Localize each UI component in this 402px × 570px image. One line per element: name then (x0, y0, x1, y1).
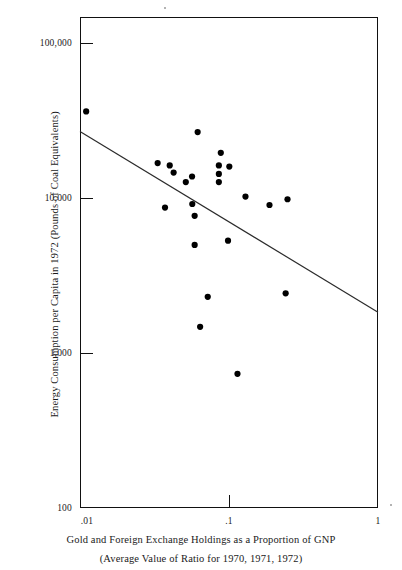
y-axis-title: Energy Consumption per Capita in 1972 (P… (49, 118, 60, 418)
y-tick-label-10000: 10,000 (16, 193, 72, 203)
y-tick-label-1000: 1,000 (16, 348, 72, 358)
scatter-plot-figure: 100,000 10,000 1,000 100 .01 .1 1 Energy… (0, 0, 402, 570)
scan-speck (390, 504, 392, 506)
x-axis-subtitle: (Average Value of Ratio for 1970, 1971, … (0, 553, 402, 564)
y-tick-mark-1000 (80, 353, 93, 354)
x-tick-mark-0.1 (229, 495, 230, 508)
plot-area-frame (80, 17, 378, 508)
scan-speck (164, 7, 166, 9)
x-tick-label-0.1: .1 (214, 516, 244, 526)
x-tick-label-1: 1 (363, 516, 393, 526)
y-tick-label-100000: 100,000 (16, 38, 72, 48)
y-tick-label-100: 100 (16, 503, 72, 513)
y-tick-mark-100000 (80, 43, 93, 44)
x-axis-title: Gold and Foreign Exchange Holdings as a … (0, 534, 402, 545)
x-tick-label-0.01: .01 (72, 516, 102, 526)
y-tick-mark-10000 (80, 198, 93, 199)
